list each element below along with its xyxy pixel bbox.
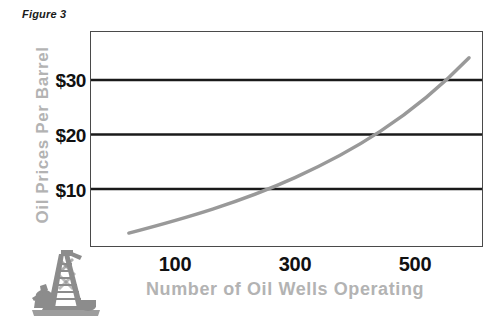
figure-container: Figure 3 Oil Prices Per Barrel $30 $20 $… bbox=[0, 0, 500, 326]
x-axis-title: Number of Oil Wells Operating bbox=[146, 279, 424, 300]
supply-curve-line bbox=[129, 58, 469, 233]
oil-derrick-icon bbox=[28, 250, 104, 320]
y-tick-label-20: $20 bbox=[40, 125, 86, 147]
y-tick-label-10: $10 bbox=[40, 180, 86, 202]
x-tick-label-300: 300 bbox=[260, 253, 330, 276]
x-tick-label-500: 500 bbox=[380, 253, 450, 276]
chart-svg bbox=[91, 32, 482, 246]
plot-area bbox=[90, 31, 483, 247]
x-tick-label-100: 100 bbox=[140, 253, 210, 276]
y-tick-label-30: $30 bbox=[40, 70, 86, 92]
